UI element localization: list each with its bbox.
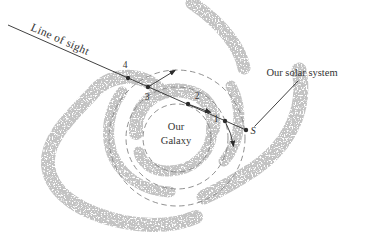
point-3-label: 3 bbox=[145, 92, 150, 102]
galaxy-diagram-canvas: Line of sight Our solar system Our Galax… bbox=[0, 0, 365, 247]
spiral-arm-top bbox=[192, 3, 244, 68]
point-1-dot bbox=[223, 119, 227, 123]
point-2-dot bbox=[186, 102, 190, 106]
sun-dot bbox=[244, 128, 248, 132]
point-2-label: 2 bbox=[195, 91, 200, 101]
point-1-label: 1 bbox=[214, 114, 219, 124]
galaxy-mapping-diagram: Line of sight Our solar system Our Galax… bbox=[0, 0, 365, 247]
galaxy-label-line1: Our bbox=[168, 121, 185, 132]
spiral-arms bbox=[48, 3, 301, 225]
point-4-dot bbox=[126, 76, 130, 80]
line-of-sight-label: Line of sight bbox=[29, 21, 92, 58]
point-4-label: 4 bbox=[123, 60, 128, 70]
solar-system-label: Our solar system bbox=[266, 67, 337, 78]
galaxy-label-line2: Galaxy bbox=[161, 135, 192, 146]
point-3-dot bbox=[146, 85, 150, 89]
sun-label: S bbox=[250, 125, 256, 136]
